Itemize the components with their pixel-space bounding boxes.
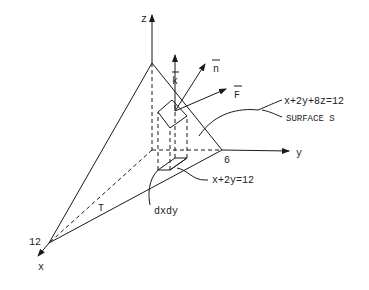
k-vector-label: k [172, 76, 178, 87]
dxdy-leader [149, 170, 158, 205]
y-intercept-label: 6 [224, 155, 230, 166]
f-vector-label: F [234, 90, 240, 101]
x-axis-label: x [38, 262, 44, 273]
x-intercept-label: 12 [29, 237, 41, 248]
n-vector-label: n [213, 64, 219, 75]
area-element-column [158, 100, 187, 170]
region-t-label: T [98, 203, 104, 214]
surface-leader [199, 100, 282, 136]
f-vector [175, 89, 226, 111]
surface-name-label: SURFACE S [286, 114, 335, 124]
surface-s-edges [49, 63, 222, 243]
n-vector [175, 64, 205, 111]
z-axis-label: z [141, 14, 147, 25]
surface-leader-2 [262, 110, 282, 117]
trace-leader [177, 168, 208, 180]
y-axis-label: y [296, 148, 302, 159]
trace-equation-label: x+2y=12 [212, 175, 254, 186]
surface-equation-label: x+2y+8z=12 [284, 96, 344, 107]
tetrahedron-diagram: z y 6 x 12 k n F [0, 0, 369, 290]
area-element-label: dxdy [154, 206, 178, 217]
